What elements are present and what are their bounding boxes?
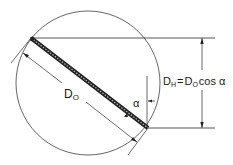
length-dimension-line-b — [86, 102, 137, 142]
diagram-canvas: DO α DH=DOcos α — [0, 0, 233, 165]
height-arrow-top — [200, 38, 203, 44]
height-arrow-bottom — [200, 122, 203, 128]
projection-formula-label: DH=DOcos α — [163, 75, 226, 88]
bar-length-label: DO — [64, 87, 79, 102]
angle-arrow-head — [148, 100, 152, 103]
bar-start-extension — [11, 38, 31, 63]
angle-label: α — [133, 97, 140, 109]
bar-end-extension — [128, 128, 148, 155]
diagonal-bar — [30, 37, 148, 128]
